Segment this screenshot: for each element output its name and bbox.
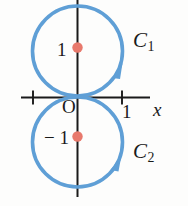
curve-label-c2-subscript: 2 <box>147 150 154 165</box>
curve-label-c2-letter: C <box>133 139 147 163</box>
point-center-lower <box>72 131 82 141</box>
curve-c2-direction-arrowhead <box>111 155 122 172</box>
x-axis-label: x <box>153 100 161 119</box>
curve-c1-direction-arrowhead <box>113 63 123 79</box>
y-tick-label-one: 1 <box>57 40 67 59</box>
y-tick-label-minus-one: − 1 <box>44 128 69 147</box>
point-center-upper <box>72 42 82 52</box>
origin-label: O <box>62 97 76 116</box>
curve-label-c1: C1 <box>133 30 154 54</box>
figure-canvas: C1 C2 x 1 − 1 O 1 <box>0 0 188 206</box>
x-tick-label-one: 1 <box>122 102 132 121</box>
curve-label-c1-letter: C <box>133 28 147 52</box>
curve-label-c1-subscript: 1 <box>147 39 154 54</box>
curve-label-c2: C2 <box>133 141 154 165</box>
